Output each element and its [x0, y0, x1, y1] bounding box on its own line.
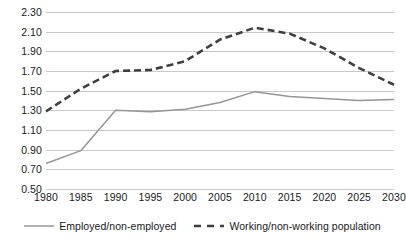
legend-label: Working/non-working population — [229, 221, 380, 232]
series-layer — [46, 12, 394, 189]
x-tick-label: 2015 — [278, 192, 302, 203]
x-tick-label: 2000 — [173, 192, 197, 203]
legend-swatch — [24, 221, 54, 231]
y-tick-label: 1.70 — [0, 66, 42, 77]
y-tick-label: 0.90 — [0, 144, 42, 155]
y-tick-label: 2.10 — [0, 26, 42, 37]
legend-swatch — [194, 221, 224, 231]
y-tick-label: 1.10 — [0, 125, 42, 136]
y-tick-label: 2.30 — [0, 7, 42, 18]
x-tick-label: 1990 — [104, 192, 128, 203]
x-tick-label: 1980 — [34, 192, 58, 203]
plot-area — [46, 12, 394, 189]
x-tick-label: 2005 — [208, 192, 232, 203]
series-line — [46, 92, 394, 164]
y-tick-label: 0.70 — [0, 164, 42, 175]
x-tick-label: 2025 — [347, 192, 371, 203]
x-tick-label: 2030 — [382, 192, 406, 203]
x-tick-label: 2020 — [313, 192, 337, 203]
y-tick-label: 1.90 — [0, 46, 42, 57]
legend-label: Employed/non-employed — [59, 221, 176, 232]
x-tick-label: 1995 — [139, 192, 163, 203]
legend-item[interactable]: Employed/non-employed — [24, 221, 176, 232]
y-tick-label: 1.30 — [0, 105, 42, 116]
x-tick-label: 1985 — [69, 192, 93, 203]
gridline — [46, 189, 394, 190]
y-tick-label: 1.50 — [0, 85, 42, 96]
chart-legend: Employed/non-employedWorking/non-working… — [0, 216, 405, 236]
x-tick-label: 2010 — [243, 192, 267, 203]
x-axis: 1980198519901995200020052010201520202025… — [46, 192, 394, 208]
legend-item[interactable]: Working/non-working population — [194, 221, 380, 232]
y-axis: 2.302.101.901.701.501.301.100.900.700.50 — [0, 12, 42, 189]
